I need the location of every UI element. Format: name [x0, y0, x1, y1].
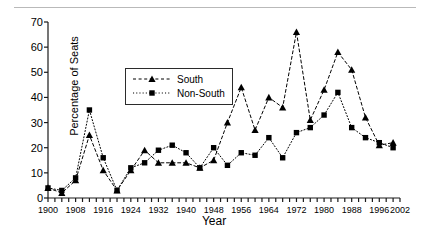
square-marker: [308, 125, 313, 130]
triangle-marker: [148, 75, 155, 82]
square-marker: [280, 155, 285, 160]
triangle-marker: [238, 84, 245, 91]
triangle-marker: [86, 132, 93, 139]
series-south: [44, 28, 396, 195]
square-marker: [114, 188, 119, 193]
plot-area: Percentage of Seats 010203040506070 1900…: [48, 22, 400, 198]
x-axis-title: Year: [0, 214, 428, 228]
square-marker: [156, 148, 161, 153]
square-marker: [183, 150, 188, 155]
square-marker: [377, 140, 382, 145]
triangle-marker: [362, 114, 369, 121]
triangle-marker: [307, 116, 314, 123]
y-axis-tick-label: 30: [31, 117, 43, 129]
axes-group: [44, 22, 400, 202]
chart-legend: SouthNon-South: [125, 68, 233, 105]
square-marker: [197, 165, 202, 170]
square-marker: [349, 125, 354, 130]
square-marker: [294, 130, 299, 135]
triangle-marker: [320, 86, 327, 93]
triangle-marker: [293, 28, 300, 35]
square-marker: [59, 188, 64, 193]
square-marker: [266, 135, 271, 140]
y-axis-tick-label: 0: [37, 192, 43, 204]
y-axis-tick-label: 40: [31, 91, 43, 103]
square-marker: [335, 90, 340, 95]
triangle-marker: [141, 147, 148, 154]
y-axis-tick-label: 60: [31, 41, 43, 53]
series-group: [44, 28, 396, 195]
square-marker: [211, 145, 216, 150]
legend-label: South: [177, 74, 203, 85]
legend-sample-triangle-marker: [132, 73, 172, 85]
square-marker: [73, 175, 78, 180]
legend-item-south: South: [132, 72, 225, 86]
chart-canvas: [48, 22, 400, 198]
legend-item-non-south: Non-South: [132, 86, 225, 100]
square-marker: [321, 112, 326, 117]
square-marker: [225, 163, 230, 168]
top-divider-rule: [14, 7, 416, 8]
triangle-marker: [265, 94, 272, 101]
square-marker: [142, 160, 147, 165]
triangle-marker: [224, 119, 231, 126]
square-marker: [87, 107, 92, 112]
y-axis-tick-label: 70: [31, 16, 43, 28]
y-axis-tick-label: 20: [31, 142, 43, 154]
figure: Percentage of Seats 010203040506070 1900…: [0, 0, 428, 250]
triangle-marker: [100, 167, 107, 174]
triangle-marker: [251, 127, 258, 134]
square-marker: [239, 150, 244, 155]
triangle-marker: [210, 157, 217, 164]
square-marker: [170, 143, 175, 148]
square-marker: [149, 90, 154, 95]
square-marker: [252, 153, 257, 158]
series-line-1: [48, 32, 393, 193]
square-marker: [101, 155, 106, 160]
legend-label: Non-South: [177, 88, 225, 99]
square-marker: [363, 135, 368, 140]
triangle-marker: [389, 139, 396, 146]
legend-sample-square-marker: [132, 87, 172, 99]
square-marker: [390, 145, 395, 150]
y-axis-tick-label: 50: [31, 66, 43, 78]
square-marker: [45, 185, 50, 190]
y-axis-tick-label: 10: [31, 167, 43, 179]
triangle-marker: [334, 49, 341, 56]
triangle-marker: [279, 104, 286, 111]
square-marker: [128, 165, 133, 170]
